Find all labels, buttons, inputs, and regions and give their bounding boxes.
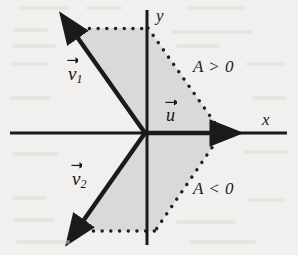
- vector-u-label: u: [166, 106, 175, 125]
- vector-v1-subscript: 1: [76, 72, 82, 86]
- x-axis-label: x: [262, 110, 270, 130]
- figure-canvas: [0, 0, 298, 255]
- vector-v2-label: v 2: [72, 169, 86, 192]
- y-axis-label: y: [156, 6, 164, 26]
- vector-cone-figure: y x A > 0 A < 0 v 1 v 2: [0, 0, 298, 255]
- region-label-positive: A > 0: [193, 57, 234, 77]
- vector-v1-label: v 1: [68, 64, 82, 87]
- vector-v2-subscript: 2: [80, 177, 86, 191]
- vector-arrow-overbar-icon: [165, 98, 177, 105]
- vector-v1-glyph: v: [68, 63, 76, 84]
- vector-arrow-overbar-icon: [71, 161, 82, 168]
- vector-arrow-overbar-icon: [67, 56, 78, 63]
- vector-u-glyph: u: [166, 105, 175, 125]
- vector-v2-glyph: v: [72, 168, 80, 189]
- region-label-negative: A < 0: [193, 179, 234, 199]
